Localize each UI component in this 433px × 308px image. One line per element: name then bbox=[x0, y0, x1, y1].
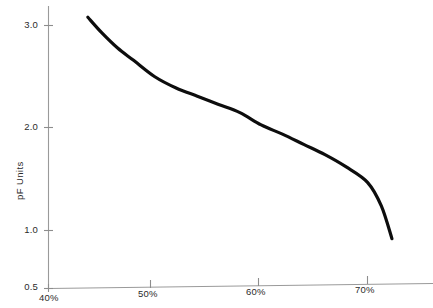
x-tick-label-60: 60% bbox=[246, 286, 266, 297]
y-tick-label-0-5: 0.5 bbox=[10, 281, 38, 292]
y-tick-label-3-0: 3.0 bbox=[10, 19, 38, 30]
x-axis-line bbox=[49, 284, 433, 289]
x-tick-label-50: 50% bbox=[138, 288, 158, 299]
y-tick-label-2-0: 2.0 bbox=[10, 121, 38, 132]
x-tick-label-70: 70% bbox=[355, 284, 375, 295]
y-axis-title: pF Units bbox=[14, 161, 25, 200]
x-tick-label-40: 40% bbox=[39, 292, 59, 303]
y-tick-label-1-0: 1.0 bbox=[10, 224, 38, 235]
data-series-line bbox=[88, 17, 392, 238]
plot-area bbox=[0, 0, 433, 308]
chart-figure: 3.0 2.0 1.0 0.5 40% 50% 60% 70% pF Units bbox=[0, 0, 433, 308]
